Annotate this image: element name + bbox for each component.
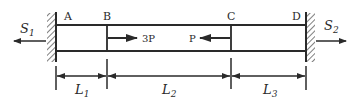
reaction-label-s2: S2 bbox=[324, 18, 339, 35]
force-label-3p: 3P bbox=[142, 33, 155, 44]
bar-diagram: A B C D 3P P S1 S2 L1 L2 L3 bbox=[0, 0, 358, 104]
reaction-label-s1: S1 bbox=[20, 21, 35, 38]
dimension-label-l1: L1 bbox=[74, 82, 89, 99]
point-label-a: A bbox=[63, 10, 73, 23]
force-label-p: P bbox=[189, 33, 196, 44]
left-wall-support bbox=[47, 12, 56, 62]
point-label-c: C bbox=[227, 10, 235, 23]
dimension-label-l3: L3 bbox=[262, 82, 278, 99]
point-label-d: D bbox=[292, 10, 301, 23]
point-label-b: B bbox=[103, 10, 111, 23]
dimension-label-l2: L2 bbox=[161, 82, 177, 99]
bar-body bbox=[56, 25, 306, 51]
right-wall-support bbox=[306, 12, 315, 62]
